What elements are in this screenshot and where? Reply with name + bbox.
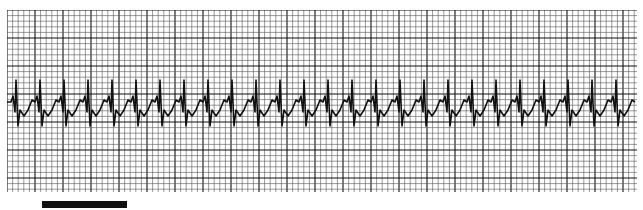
- ecg-rhythm-strip: [7, 10, 637, 192]
- caption-scale-bar: [42, 201, 127, 208]
- ecg-trace: [7, 80, 635, 126]
